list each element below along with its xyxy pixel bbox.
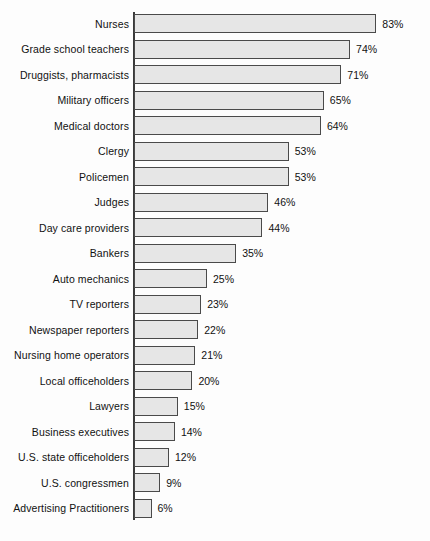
category-label: TV reporters (0, 298, 129, 310)
bar (134, 116, 321, 135)
category-label: Lawyers (0, 400, 129, 412)
bar-row: Grade school teachers74% (0, 40, 430, 59)
bar-value-label: 21% (201, 349, 222, 361)
bar-row: Clergy53% (0, 142, 430, 161)
bar-value-label: 25% (213, 273, 234, 285)
bar-row: Day care providers44% (0, 218, 430, 237)
category-label: Newspaper reporters (0, 324, 129, 336)
category-label: Druggists, pharmacists (0, 69, 129, 81)
value-axis-line (133, 12, 135, 520)
bar (134, 422, 175, 441)
category-label: U.S. state officeholders (0, 451, 129, 463)
category-label: Nursing home operators (0, 349, 129, 361)
bar-value-label: 53% (295, 171, 316, 183)
bar-value-label: 14% (181, 426, 202, 438)
category-label: Nurses (0, 18, 129, 30)
bar-value-label: 74% (356, 43, 377, 55)
category-label: Auto mechanics (0, 273, 129, 285)
bar-row: Business executives14% (0, 422, 430, 441)
bar-value-label: 46% (274, 196, 295, 208)
bar-row: Nursing home operators21% (0, 346, 430, 365)
bar (134, 448, 169, 467)
bar-row: Lawyers15% (0, 397, 430, 416)
category-label: Bankers (0, 247, 129, 259)
bar-row: Judges46% (0, 193, 430, 212)
bar-chart: Nurses83%Grade school teachers74%Druggis… (0, 0, 430, 541)
bar-value-label: 9% (166, 477, 181, 489)
bar (134, 65, 341, 84)
category-label: Policemen (0, 171, 129, 183)
bar-value-label: 35% (242, 247, 263, 259)
bar (134, 320, 198, 339)
bar-row: U.S. congressmen9% (0, 473, 430, 492)
category-label: Local officeholders (0, 375, 129, 387)
bar-value-label: 22% (204, 324, 225, 336)
bar (134, 193, 268, 212)
bar-value-label: 83% (382, 18, 403, 30)
bar-row: Bankers35% (0, 244, 430, 263)
bar-value-label: 20% (198, 375, 219, 387)
bar (134, 14, 376, 33)
bar-row: Nurses83% (0, 14, 430, 33)
bar (134, 397, 178, 416)
bar (134, 40, 350, 59)
category-label: Military officers (0, 94, 129, 106)
bar (134, 499, 152, 518)
bar (134, 269, 207, 288)
category-label: Business executives (0, 426, 129, 438)
bar-row: U.S. state officeholders12% (0, 448, 430, 467)
plot-area: Nurses83%Grade school teachers74%Druggis… (0, 0, 430, 541)
bar (134, 295, 201, 314)
bar-value-label: 12% (175, 451, 196, 463)
bar-value-label: 53% (295, 145, 316, 157)
category-label: Advertising Practitioners (0, 502, 129, 514)
bar-value-label: 44% (268, 222, 289, 234)
bar-value-label: 15% (184, 400, 205, 412)
bar-row: Auto mechanics25% (0, 269, 430, 288)
bar-row: Local officeholders20% (0, 371, 430, 390)
bar-value-label: 65% (330, 94, 351, 106)
bar-row: Druggists, pharmacists71% (0, 65, 430, 84)
bar-value-label: 23% (207, 298, 228, 310)
bar-row: Policemen53% (0, 167, 430, 186)
bar (134, 371, 192, 390)
category-label: Judges (0, 196, 129, 208)
category-label: Day care providers (0, 222, 129, 234)
bar (134, 91, 324, 110)
bar-row: TV reporters23% (0, 295, 430, 314)
bar-row: Advertising Practitioners6% (0, 499, 430, 518)
bar-value-label: 6% (158, 502, 173, 514)
bar-value-label: 71% (347, 69, 368, 81)
bar (134, 244, 236, 263)
category-label: Medical doctors (0, 120, 129, 132)
bar-value-label: 64% (327, 120, 348, 132)
category-label: U.S. congressmen (0, 477, 129, 489)
bar (134, 218, 262, 237)
bar (134, 473, 160, 492)
bar (134, 346, 195, 365)
bar (134, 142, 289, 161)
category-label: Grade school teachers (0, 43, 129, 55)
category-label: Clergy (0, 145, 129, 157)
bar-row: Medical doctors64% (0, 116, 430, 135)
bar-row: Military officers65% (0, 91, 430, 110)
bar (134, 167, 289, 186)
bar-row: Newspaper reporters22% (0, 320, 430, 339)
